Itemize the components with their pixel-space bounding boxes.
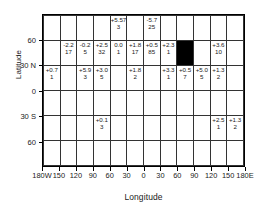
grid-cell: +3.31 — [160, 66, 177, 91]
x-tick-mark — [160, 167, 161, 171]
x-tick-mark — [228, 167, 229, 171]
x-axis-title: Longitude — [42, 192, 245, 202]
cell-content: +2.532 — [94, 42, 110, 55]
grid-cell — [60, 91, 77, 116]
x-tick-label: 90 — [89, 171, 97, 180]
x-tick-label: 60 — [173, 171, 181, 180]
cell-content: -5.725 — [144, 17, 160, 30]
x-tick-label: 150 — [222, 171, 234, 180]
grid-cell — [110, 66, 127, 91]
latitude-longitude-grid-chart: Latitude Longitude +5.573-5.725-2.217-0.… — [0, 0, 270, 212]
grid-cell-filled — [177, 41, 194, 66]
grid-cell: +2.31 — [160, 41, 177, 66]
grid-cell — [60, 66, 77, 91]
grid-cell: +0.585 — [143, 41, 160, 66]
grid-cell — [160, 91, 177, 116]
grid-cell — [227, 91, 244, 116]
x-tick-label: 180W — [32, 171, 51, 180]
y-tick-label: 60 — [0, 137, 36, 146]
grid-cell: +2.51 — [210, 116, 227, 141]
grid-cell — [127, 141, 144, 166]
grid-cell: +2.532 — [93, 41, 110, 66]
x-tick-mark — [76, 167, 77, 171]
grid-cell — [143, 141, 160, 166]
grid-row: +0.71+5.93+3.05+1.82+3.31+0.57+5.05+1.32 — [44, 66, 244, 91]
grid-cell — [60, 16, 77, 41]
x-tick-mark — [211, 167, 212, 171]
cell-content: +1.32 — [211, 67, 227, 80]
grid-cell — [93, 91, 110, 116]
grid-cell — [127, 91, 144, 116]
grid-cell — [227, 141, 244, 166]
plot-area: +5.573-5.725-2.217-0.25+2.5320.01+1.817+… — [42, 14, 245, 167]
grid-cell — [177, 141, 194, 166]
grid-cell — [44, 116, 61, 141]
grid-cell: -5.725 — [143, 16, 160, 41]
x-tick-mark — [245, 167, 246, 171]
grid-cell: +1.817 — [127, 41, 144, 66]
grid-cell — [77, 141, 94, 166]
grid-row: -2.217-0.25+2.5320.01+1.817+0.585+2.31+3… — [44, 41, 244, 66]
grid-cell — [143, 91, 160, 116]
cell-count: 5 — [77, 49, 93, 56]
x-tick-label: 150 — [53, 171, 65, 180]
x-tick-mark — [144, 167, 145, 171]
cell-count: 1 — [161, 74, 177, 81]
grid-cell — [44, 141, 61, 166]
grid-cell — [227, 41, 244, 66]
x-tick-mark — [177, 167, 178, 171]
grid-cell — [210, 16, 227, 41]
grid-cell: +1.32 — [210, 66, 227, 91]
cell-count: 1 — [44, 74, 60, 81]
cell-count: 2 — [211, 74, 227, 81]
cell-count: 1 — [161, 49, 177, 56]
grid-cell: +0.57 — [177, 66, 194, 91]
x-tick-mark — [127, 167, 128, 171]
x-tick-mark — [110, 167, 111, 171]
cell-content: +1.817 — [127, 42, 143, 55]
cell-content: +0.13 — [94, 117, 110, 130]
cell-count: 1 — [111, 49, 127, 56]
cell-count: 3 — [77, 74, 93, 81]
grid-cell — [210, 141, 227, 166]
cell-content: +3.31 — [161, 67, 177, 80]
grid-cell — [110, 141, 127, 166]
cell-content: +2.31 — [161, 42, 177, 55]
x-tick-label: 0 — [141, 171, 145, 180]
grid-cell — [93, 16, 110, 41]
cell-count: 85 — [144, 49, 160, 56]
cell-count: 2 — [127, 74, 143, 81]
grid-cell — [77, 116, 94, 141]
grid-cell — [193, 16, 210, 41]
cell-content: +5.05 — [194, 67, 210, 80]
grid-cell — [193, 141, 210, 166]
grid-cell — [177, 91, 194, 116]
cell-count: 25 — [144, 24, 160, 31]
cell-content: +1.32 — [227, 117, 243, 130]
y-tick-label: 30 S — [0, 112, 36, 121]
grid-cell — [160, 141, 177, 166]
grid-cell: +5.573 — [110, 16, 127, 41]
grid-cells-table: +5.573-5.725-2.217-0.25+2.5320.01+1.817+… — [43, 15, 244, 166]
cell-count: 5 — [194, 74, 210, 81]
y-tick-mark — [39, 40, 43, 41]
grid-cell — [44, 91, 61, 116]
x-tick-mark — [42, 167, 43, 171]
cell-content: +3.610 — [211, 42, 227, 55]
grid-cell: 0.01 — [110, 41, 127, 66]
x-tick-label: 30 — [122, 171, 130, 180]
x-tick-mark — [194, 167, 195, 171]
grid-cell: +0.71 — [44, 66, 61, 91]
y-tick-mark — [39, 65, 43, 66]
x-tick-label: 30 — [156, 171, 164, 180]
cell-content: +1.82 — [127, 67, 143, 80]
x-tick-mark — [93, 167, 94, 171]
cell-count: 17 — [61, 49, 77, 56]
grid-cell — [227, 16, 244, 41]
cell-count: 17 — [127, 49, 143, 56]
grid-row: +5.573-5.725 — [44, 16, 244, 41]
grid-cell: -0.25 — [77, 41, 94, 66]
grid-cell: +5.05 — [193, 66, 210, 91]
grid-row — [44, 141, 244, 166]
y-tick-label: 60 — [0, 35, 36, 44]
